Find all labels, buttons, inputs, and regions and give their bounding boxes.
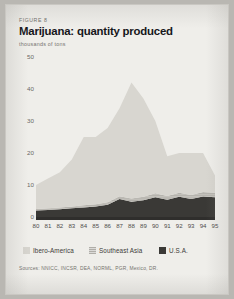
x-tick-90: 90: [149, 222, 161, 230]
x-tick-83: 83: [66, 222, 78, 230]
scanned-figure-page: FIGURE 8 Marijuana: quantity produced th…: [6, 5, 228, 294]
x-tick-94: 94: [197, 222, 209, 230]
sources-note: Sources: NNICC, INCSR, DEA, NORML, PGR, …: [19, 265, 215, 272]
legend-label: U.S.A.: [169, 247, 188, 254]
y-tick-10: 10: [19, 182, 34, 188]
x-tick-80: 80: [30, 222, 42, 230]
legend-label: Ibero-America: [33, 247, 74, 254]
x-tick-93: 93: [185, 222, 197, 230]
area-series-ibero-america: [36, 83, 215, 209]
x-tick-92: 92: [173, 222, 185, 230]
x-tick-84: 84: [78, 222, 90, 230]
legend-swatch-icon: [159, 247, 166, 254]
x-tick-95: 95: [209, 222, 221, 230]
x-tick-88: 88: [125, 222, 137, 230]
figure-number: FIGURE 8: [19, 17, 215, 24]
x-axis-labels: 80818283848586878889909192939495: [36, 222, 215, 232]
x-tick-91: 91: [161, 222, 173, 230]
x-tick-81: 81: [42, 222, 54, 230]
stacked-area-svg: [36, 57, 215, 217]
x-tick-87: 87: [114, 222, 126, 230]
y-tick-0: 0: [19, 214, 34, 220]
x-tick-82: 82: [54, 222, 66, 230]
figure-subtitle: thousands of tons: [19, 40, 215, 48]
figure-content: FIGURE 8 Marijuana: quantity produced th…: [19, 17, 215, 283]
y-tick-20: 20: [19, 150, 34, 156]
legend-item-southeast-asia: Southeast Asia: [89, 239, 142, 249]
legend-swatch-icon: [89, 247, 96, 254]
legend-item-u-s-a: U.S.A.: [159, 239, 188, 249]
x-tick-89: 89: [137, 222, 149, 230]
legend-item-ibero-america: Ibero-America: [23, 239, 74, 249]
x-tick-86: 86: [102, 222, 114, 230]
chart-canvas: [36, 57, 215, 217]
y-tick-40: 40: [19, 86, 34, 92]
x-axis-line: [36, 217, 215, 220]
y-axis-labels: 01020304050: [19, 57, 34, 217]
x-tick-85: 85: [90, 222, 102, 230]
y-tick-50: 50: [19, 54, 34, 60]
legend-swatch-icon: [23, 247, 30, 254]
chart-legend: Ibero-AmericaSoutheast AsiaU.S.A.: [19, 239, 215, 251]
page-title: Marijuana: quantity produced: [19, 25, 215, 38]
chart-plot-area: 01020304050 8081828384858687888990919293…: [19, 57, 215, 233]
y-tick-30: 30: [19, 118, 34, 124]
legend-label: Southeast Asia: [99, 247, 142, 254]
